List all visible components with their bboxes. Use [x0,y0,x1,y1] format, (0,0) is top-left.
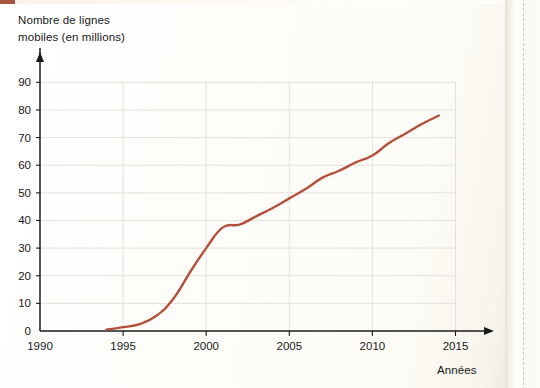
data-series-line [106,115,438,329]
xtick-label-2015: 2015 [443,340,469,352]
ytick-label-30: 30 [18,242,31,254]
y-axis-tick-labels: 0102030405060708090 [18,76,31,337]
xtick-label-1990: 1990 [27,340,53,352]
xtick-label-2000: 2000 [193,340,219,352]
x-axis-arrowhead [484,327,494,335]
xtick-label-2005: 2005 [277,340,303,352]
ytick-label-0: 0 [25,325,31,337]
ytick-label-70: 70 [18,132,31,144]
line-chart-plot: 0102030405060708090 19901995200020052010… [0,0,540,388]
ytick-label-50: 50 [18,187,31,199]
ytick-label-20: 20 [18,270,31,282]
x-axis-tick-labels: 199019952000200520102015 [27,340,468,352]
horizontal-gridlines [40,82,456,303]
xtick-label-2010: 2010 [360,340,386,352]
ytick-label-60: 60 [18,159,31,171]
vertical-gridlines [123,82,455,331]
xtick-label-1995: 1995 [110,340,136,352]
ytick-label-10: 10 [18,297,31,309]
ytick-label-40: 40 [18,214,31,226]
ytick-label-80: 80 [18,104,31,116]
ytick-label-90: 90 [18,76,31,88]
chart-page: Nombre de lignes mobiles (en millions) A… [0,0,540,388]
axis-lines [36,48,494,335]
